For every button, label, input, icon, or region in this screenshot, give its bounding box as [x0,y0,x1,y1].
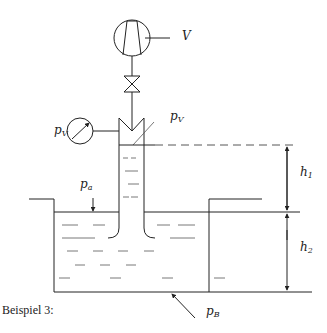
valve-icon [124,76,140,92]
vacuum-pump-icon [114,20,170,56]
bottom-pressure-label: pB [206,304,220,319]
hydrostatics-diagram: V pV pV [0,0,327,333]
caption: Beispiel 3: [2,303,54,317]
pressure-gauge-icon [67,118,119,144]
inverted-tube [108,145,155,238]
tube-head [119,118,154,145]
tank-liquid-marks [59,225,225,278]
gauge-pressure-label: pV [54,123,69,138]
h1-label: h1 [300,165,313,180]
atmospheric-pressure-label: pa [80,177,93,192]
tube-liquid-marks [123,158,139,197]
vessel-pressure-label: pV [170,109,185,124]
pump-label: V [182,29,192,43]
bottom-pressure-arrow [172,294,195,318]
h2-label: h2 [300,240,313,255]
